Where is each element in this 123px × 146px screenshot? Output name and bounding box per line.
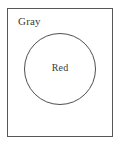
- inner-set-label: Red: [24, 62, 96, 74]
- outer-set-label: Gray: [18, 15, 41, 28]
- set-diagram-canvas: Gray Red: [0, 0, 123, 146]
